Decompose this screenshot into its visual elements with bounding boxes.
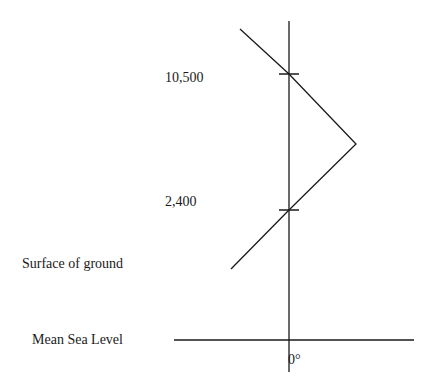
mean-sea-level-label: Mean Sea Level xyxy=(32,332,123,348)
surface-of-ground-label: Surface of ground xyxy=(22,256,123,272)
zero-degree-label: 0° xyxy=(288,352,301,368)
temperature-altitude-diagram xyxy=(0,0,434,382)
altitude-label-2400: 2,400 xyxy=(165,194,197,210)
temperature-profile-line xyxy=(231,29,356,269)
altitude-label-10500: 10,500 xyxy=(165,70,204,86)
